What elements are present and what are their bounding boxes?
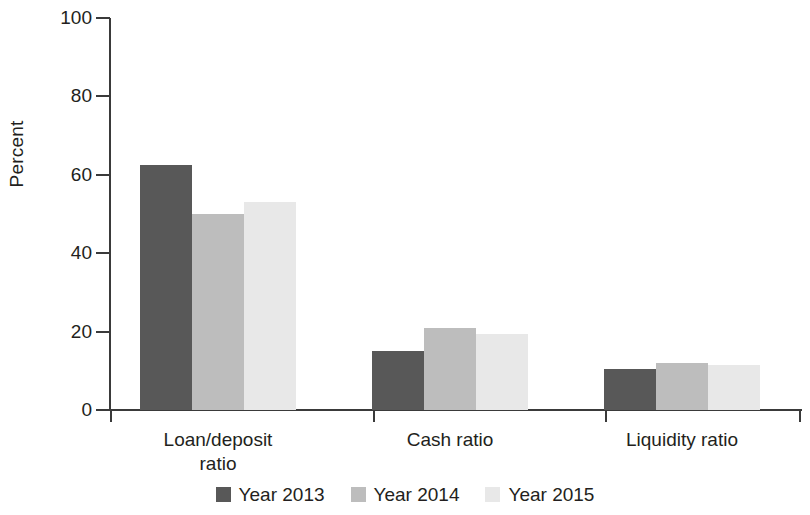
y-axis-tick-label: 40 xyxy=(8,243,92,262)
legend-item[interactable]: Year 2013 xyxy=(216,485,325,504)
y-axis-tick xyxy=(96,409,110,411)
x-axis-tick xyxy=(373,411,375,422)
bar xyxy=(372,351,424,410)
y-axis-tick-label-wrap: 80 xyxy=(0,86,92,105)
bar xyxy=(140,165,192,410)
y-axis-tick-label-wrap: 100 xyxy=(0,8,92,27)
bar xyxy=(476,334,528,410)
bar xyxy=(424,328,476,410)
y-axis-tick xyxy=(96,17,110,19)
y-axis-tick-label: 0 xyxy=(8,400,92,419)
legend-label: Year 2013 xyxy=(239,485,325,504)
x-axis-category-label: Cash ratio xyxy=(340,428,560,452)
bar xyxy=(604,369,656,410)
x-axis-category-label-line: Loan/deposit xyxy=(108,428,328,452)
y-axis-tick-label: 100 xyxy=(8,8,92,27)
legend-swatch-icon xyxy=(485,487,500,502)
legend-swatch-icon xyxy=(351,487,366,502)
x-axis-tick xyxy=(605,411,607,422)
bar xyxy=(708,365,760,410)
bar xyxy=(656,363,708,410)
y-axis-tick-label-wrap: 0 xyxy=(0,400,92,419)
x-axis-category-label: Loan/depositratio xyxy=(108,428,328,476)
legend-item[interactable]: Year 2015 xyxy=(485,485,594,504)
legend: Year 2013Year 2014Year 2015 xyxy=(0,485,810,504)
x-axis-category-label-line: Cash ratio xyxy=(340,428,560,452)
y-axis-tick-label-wrap: 20 xyxy=(0,322,92,341)
x-axis-tick xyxy=(110,411,112,422)
y-axis-tick xyxy=(96,95,110,97)
y-axis-tick-label: 80 xyxy=(8,86,92,105)
y-axis-tick-label: 60 xyxy=(8,165,92,184)
y-axis-tick xyxy=(96,174,110,176)
x-axis-tick xyxy=(799,411,801,422)
bar xyxy=(192,214,244,410)
y-axis-tick-label-wrap: 40 xyxy=(0,243,92,262)
legend-label: Year 2015 xyxy=(508,485,594,504)
x-axis-category-label: Liquidity ratio xyxy=(572,428,792,452)
legend-label: Year 2014 xyxy=(374,485,460,504)
legend-swatch-icon xyxy=(216,487,231,502)
y-axis-title: Percent xyxy=(6,94,28,214)
bar-chart: Percent 020406080100 Loan/depositratioCa… xyxy=(0,0,810,515)
x-axis-category-label-line: Liquidity ratio xyxy=(572,428,792,452)
y-axis-tick-label: 20 xyxy=(8,322,92,341)
y-axis-tick-label-wrap: 60 xyxy=(0,165,92,184)
legend-item[interactable]: Year 2014 xyxy=(351,485,460,504)
y-axis-tick xyxy=(96,331,110,333)
bar xyxy=(244,202,296,410)
x-axis-category-label-line: ratio xyxy=(108,452,328,476)
bars-layer xyxy=(111,18,802,410)
y-axis-tick xyxy=(96,252,110,254)
